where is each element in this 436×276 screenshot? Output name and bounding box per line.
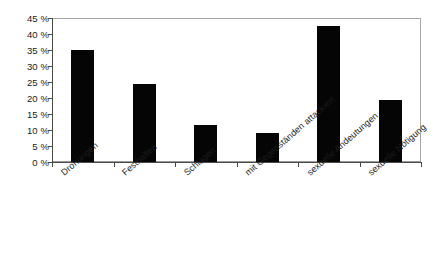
y-axis: 0 %5 %10 %15 %20 %25 %30 %35 %40 %45 % [0, 0, 49, 276]
x-axis-tick-mark [175, 163, 176, 167]
y-axis-tick-label: 45 % [27, 13, 49, 24]
y-axis-tick-label: 30 % [27, 61, 49, 72]
y-axis-tick-label: 35 % [27, 45, 49, 56]
y-axis-tick-label: 15 % [27, 109, 49, 120]
x-axis-tick-mark [114, 163, 115, 167]
y-axis-tick-label: 0 % [32, 157, 49, 168]
y-axis-tick-label: 40 % [27, 29, 49, 40]
bars-group [52, 18, 421, 162]
x-axis-tick-mark [52, 163, 53, 167]
x-axis-tick-mark [360, 163, 361, 167]
y-axis-tick-label: 25 % [27, 77, 49, 88]
x-axis-tick-mark [237, 163, 238, 167]
x-axis-tick-mark [421, 163, 422, 167]
y-axis-tick-label: 10 % [27, 125, 49, 136]
y-axis-tick-label: 5 % [32, 141, 49, 152]
y-axis-tick-label: 20 % [27, 93, 49, 104]
bar-chart: 0 %5 %10 %15 %20 %25 %30 %35 %40 %45 % D… [0, 0, 436, 276]
x-axis-tick-mark [298, 163, 299, 167]
